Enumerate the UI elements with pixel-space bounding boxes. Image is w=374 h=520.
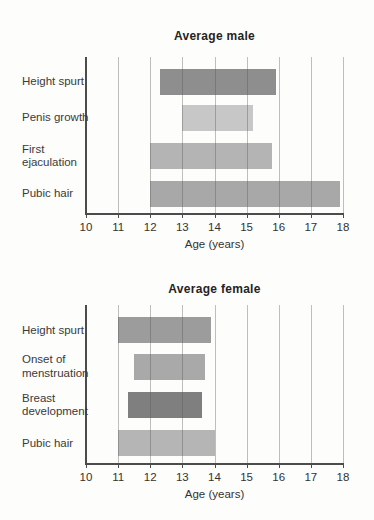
tick-label: 18	[330, 221, 356, 233]
x-axis-title: Age (years)	[86, 488, 343, 500]
tick-label: 13	[169, 471, 195, 483]
gridline	[247, 305, 248, 463]
gridline	[215, 57, 216, 213]
tick-label: 11	[105, 221, 131, 233]
category-label-pubic-hair: Pubic hair	[22, 173, 92, 215]
chart-title: Average female	[86, 282, 343, 296]
gridline	[182, 57, 183, 213]
gridline	[279, 57, 280, 213]
bar-height-spurt	[160, 69, 276, 95]
tick-label: 16	[266, 221, 292, 233]
bar-onset-of-menstruation	[134, 354, 205, 380]
chart-title: Average male	[86, 29, 343, 43]
gridline	[150, 57, 151, 213]
category-label-onset-of-menstruation: Onset of menstruation	[22, 346, 92, 388]
gridline	[182, 305, 183, 463]
bar-first-ejaculation	[150, 143, 272, 169]
x-axis-line	[85, 213, 344, 215]
gridline	[311, 57, 312, 213]
category-label-first-ejaculation: First ejaculation	[22, 135, 92, 177]
x-axis-title: Age (years)	[86, 238, 343, 250]
tick-label: 13	[169, 221, 195, 233]
category-label-pubic-hair: Pubic hair	[22, 422, 92, 464]
tick-label: 17	[298, 221, 324, 233]
x-axis-line	[85, 463, 344, 465]
tick-label: 16	[266, 471, 292, 483]
tick-label: 10	[73, 471, 99, 483]
category-label-breast-development: Breast development	[22, 384, 92, 426]
tick-label: 12	[137, 221, 163, 233]
chart-average-male: Average maleHeight spurtPenis growthFirs…	[0, 0, 374, 260]
tick-label: 18	[330, 471, 356, 483]
gridline	[215, 305, 216, 463]
chart-average-female: Average femaleHeight spurtOnset of menst…	[0, 260, 374, 520]
tick-label: 15	[234, 471, 260, 483]
gridline	[247, 57, 248, 213]
tick-label: 15	[234, 221, 260, 233]
gridline	[311, 305, 312, 463]
gridline	[279, 305, 280, 463]
gridline	[150, 305, 151, 463]
bar-penis-growth	[182, 105, 253, 131]
tick-label: 14	[202, 221, 228, 233]
tick-label: 10	[73, 221, 99, 233]
category-label-penis-growth: Penis growth	[22, 97, 92, 139]
bar-breast-development	[128, 392, 202, 418]
tick-label: 11	[105, 471, 131, 483]
bar-height-spurt	[118, 317, 211, 343]
gridline	[343, 57, 344, 213]
gridline	[118, 57, 119, 213]
bar-pubic-hair	[118, 430, 214, 456]
gridline	[118, 305, 119, 463]
tick-label: 12	[137, 471, 163, 483]
gridline	[343, 305, 344, 463]
tick-label: 14	[202, 471, 228, 483]
tick-label: 17	[298, 471, 324, 483]
puberty-timing-figure: Average maleHeight spurtPenis growthFirs…	[0, 0, 374, 520]
